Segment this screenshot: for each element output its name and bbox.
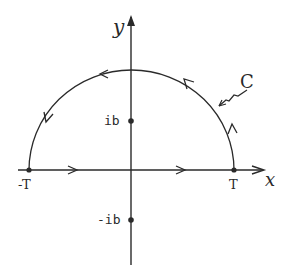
point-neg-t <box>26 167 31 172</box>
arc-direction-arrow-icon <box>44 112 53 122</box>
x-axis-label: x <box>265 169 275 190</box>
contour-label: C <box>240 71 254 92</box>
label-pointer-icon <box>219 90 247 106</box>
x-axis <box>18 166 264 174</box>
point-label-t: T <box>229 177 238 192</box>
y-axis-label: y <box>112 15 125 39</box>
pole-label-ib: ib <box>104 113 120 128</box>
y-axis-arrow-icon <box>127 15 135 26</box>
contour-diagram-svg: y x C -T T ib -ib <box>0 0 293 276</box>
arc-direction-arrow-icon <box>228 124 237 134</box>
pole-ib <box>128 118 134 124</box>
pole-label-neg-ib: -ib <box>97 212 121 227</box>
point-t <box>231 167 236 172</box>
point-label-neg-t: -T <box>18 177 31 192</box>
pole-neg-ib <box>128 217 134 223</box>
y-axis <box>127 15 135 265</box>
contour-diagram: y x C -T T ib -ib <box>0 0 293 276</box>
